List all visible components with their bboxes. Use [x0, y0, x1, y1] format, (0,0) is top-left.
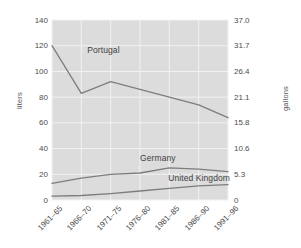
- y-axis-left-tick: 100: [24, 67, 48, 76]
- y-axis-left-tick-label: 100: [24, 67, 48, 76]
- y-axis-right-tick-label: 37.0: [234, 16, 260, 25]
- y-axis-left-tick-label: 60: [24, 118, 48, 127]
- y-axis-right-tick: 21.1: [234, 93, 260, 102]
- y-axis-right-tick-label: 26.4: [234, 67, 260, 76]
- y-axis-right-tick: 31.7: [234, 41, 260, 50]
- y-axis-right-tick-label: 21.1: [234, 93, 260, 102]
- series-annotation: United Kingdom: [168, 173, 230, 183]
- y-axis-right-tick-label: 31.7: [234, 41, 260, 50]
- y-axis-left-tick-label: 40: [24, 144, 48, 153]
- y-axis-right-tick-label: 5.3: [234, 170, 260, 179]
- y-axis-left-tick-label: 0: [24, 196, 48, 205]
- y-axis-left-tick: 120: [24, 41, 48, 50]
- y-axis-right-tick: 5.3: [234, 170, 260, 179]
- y-axis-right-tick-label: 0: [234, 196, 260, 205]
- y-axis-right-tick: 15.8: [234, 118, 260, 127]
- y-axis-left-tick-label: 140: [24, 16, 48, 25]
- series-annotation: Germany: [140, 153, 176, 163]
- y-axis-right-title: gallons: [281, 76, 290, 122]
- y-axis-right-tick: 37.0: [234, 16, 260, 25]
- y-axis-left-tick: 80: [24, 93, 48, 102]
- y-axis-left-title: liters: [15, 81, 24, 121]
- y-axis-right-tick-label: 15.8: [234, 118, 260, 127]
- y-axis-left-tick-label: 80: [24, 93, 48, 102]
- series-annotation: Portugal: [87, 45, 119, 55]
- line-chart: liters gallons 020406080100120140 05.310…: [0, 0, 301, 248]
- y-axis-left-tick-label: 120: [24, 41, 48, 50]
- y-axis-left-tick: 140: [24, 16, 48, 25]
- y-axis-right-tick-label: 10.6: [234, 144, 260, 153]
- y-axis-left-tick: 40: [24, 144, 48, 153]
- y-axis-left-tick-label: 20: [24, 170, 48, 179]
- y-axis-right-tick: 10.6: [234, 144, 260, 153]
- y-axis-left-tick: 20: [24, 170, 48, 179]
- y-axis-right-tick: 26.4: [234, 67, 260, 76]
- y-axis-left-tick: 60: [24, 118, 48, 127]
- y-axis-left-tick: 0: [24, 196, 48, 205]
- y-axis-right-tick: 0: [234, 196, 260, 205]
